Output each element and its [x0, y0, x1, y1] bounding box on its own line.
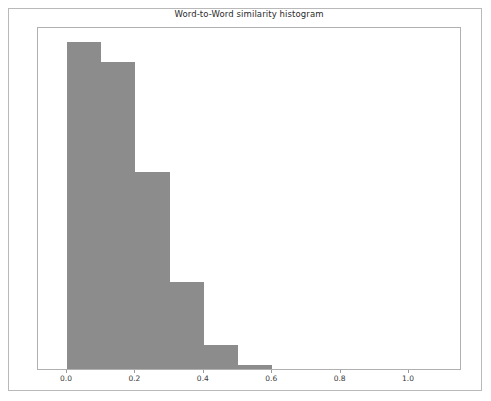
- x-tick-label: 0.8: [320, 374, 360, 383]
- bars-layer: [38, 28, 460, 369]
- x-tick-label: 0.0: [46, 374, 86, 383]
- histogram-bar: [101, 62, 135, 369]
- x-tick-label: 0.4: [183, 374, 223, 383]
- x-tick-label: 0.6: [251, 374, 291, 383]
- x-tick-label: 0.2: [114, 374, 154, 383]
- plot-area: [37, 27, 461, 370]
- x-tick-label: 1.0: [388, 374, 428, 383]
- histogram-bar: [204, 345, 238, 369]
- x-tick-mark: [203, 370, 204, 373]
- histogram-bar: [170, 282, 204, 369]
- x-tick-mark: [66, 370, 67, 373]
- chart-title: Word-to-Word similarity histogram: [37, 9, 461, 19]
- x-tick-mark: [340, 370, 341, 373]
- histogram-bar: [238, 365, 272, 369]
- histogram-figure: Word-to-Word similarity histogram 0.00.2…: [0, 0, 491, 401]
- x-tick-mark: [408, 370, 409, 373]
- histogram-bar: [67, 42, 101, 369]
- x-tick-mark: [134, 370, 135, 373]
- histogram-bar: [135, 172, 169, 369]
- x-tick-mark: [271, 370, 272, 373]
